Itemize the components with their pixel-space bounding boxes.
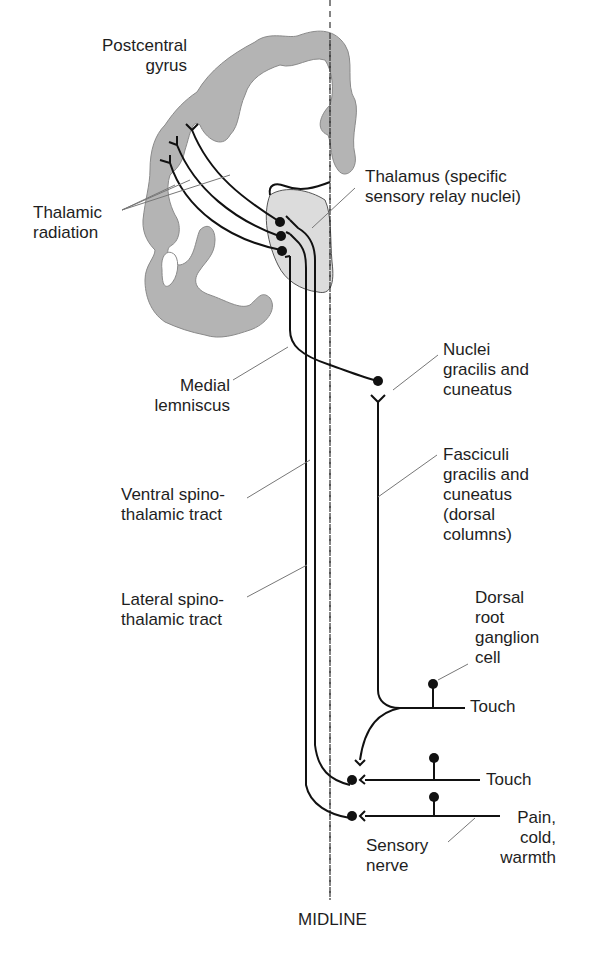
label-touch-1: Touch	[470, 697, 515, 717]
label-pain-cold-warmth: Pain, cold, warmth	[480, 808, 556, 868]
label-postcentral-gyrus: Postcentral gyrus	[70, 36, 187, 76]
label-nuclei-gracilis: Nuclei gracilis and cuneatus	[443, 340, 529, 400]
label-midline: MIDLINE	[298, 910, 367, 930]
label-dorsal-root-ganglion: Dorsal root ganglion cell	[475, 588, 539, 668]
label-thalamus: Thalamus (specific sensory relay nuclei)	[365, 167, 521, 207]
label-thalamic-radiation: Thalamic radiation	[33, 203, 102, 243]
label-touch-2: Touch	[486, 770, 531, 790]
label-lateral-spinothalamic: Lateral spino- thalamic tract	[121, 590, 224, 630]
label-ventral-spinothalamic: Ventral spino- thalamic tract	[121, 485, 225, 525]
label-fasciculi-gracilis: Fasciculi gracilis and cuneatus (dorsal …	[443, 445, 529, 545]
thalamus-shape	[266, 190, 333, 293]
label-sensory-nerve: Sensory nerve	[366, 836, 428, 876]
label-medial-lemniscus: Medial lemniscus	[130, 376, 230, 416]
